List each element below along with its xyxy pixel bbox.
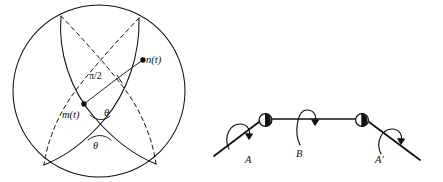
linkage-diagram xyxy=(214,110,420,160)
geodesic-m-to-n xyxy=(84,60,143,104)
label-joint-A-prime: A′ xyxy=(375,155,384,166)
great-circle-1-front xyxy=(61,16,156,164)
theta-lower-arc xyxy=(88,136,111,141)
rotation-arrow-A-arc xyxy=(227,124,250,149)
rotation-arrow-B-head xyxy=(312,120,319,126)
rotation-arrow-B xyxy=(297,110,319,145)
figure-root: m(t) n(t) π/2 θ θ A B A′ xyxy=(0,0,443,182)
label-theta-lower: θ xyxy=(93,141,98,152)
label-joint-A: A xyxy=(245,155,251,166)
point-n-marker xyxy=(140,57,145,62)
point-m-marker xyxy=(81,101,86,106)
sphere-outline xyxy=(13,5,185,177)
label-m-of-t: m(t) xyxy=(62,110,80,121)
rotation-arrow-A-prime xyxy=(379,129,405,154)
label-n-of-t: n(t) xyxy=(146,55,161,66)
label-theta-upper: θ xyxy=(104,108,109,119)
label-quarter-turn: π/2 xyxy=(89,71,102,81)
sphere-diagram xyxy=(13,5,185,177)
rotation-arrow-B-arc xyxy=(297,110,316,145)
label-shaft-B: B xyxy=(296,149,302,160)
great-circle-2-back xyxy=(44,18,139,165)
great-circle-2-front xyxy=(44,18,139,165)
shaft-input xyxy=(214,122,259,156)
joint-A xyxy=(259,114,272,127)
joint-A-prime xyxy=(356,114,369,127)
rotation-arrow-A-head xyxy=(246,134,253,140)
